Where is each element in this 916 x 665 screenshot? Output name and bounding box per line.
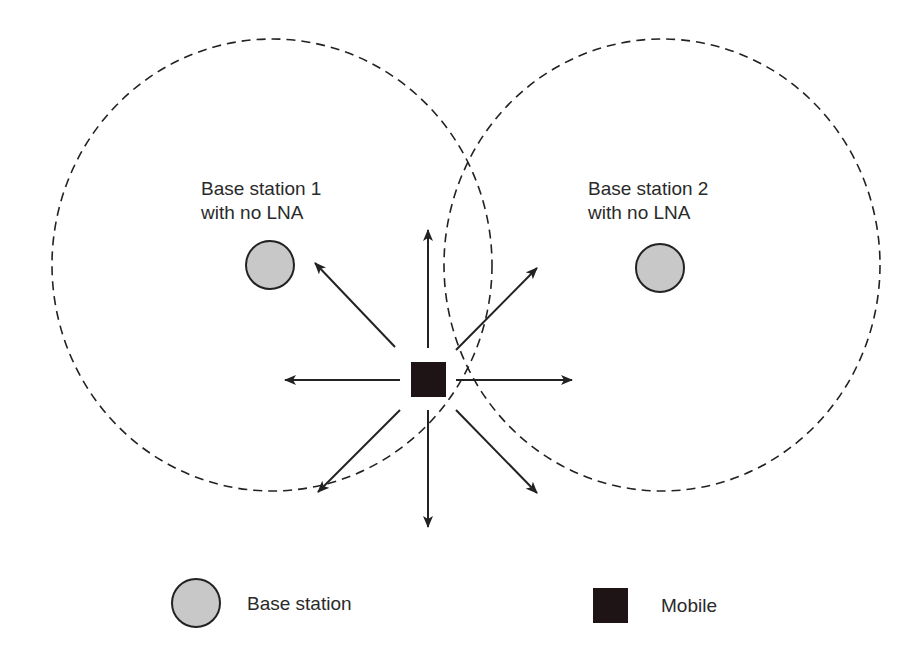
arrow-down-left-icon — [318, 410, 400, 492]
base-station-1-label: Base station 1 with no LNA — [201, 177, 321, 225]
base-station-2-label-line2: with no LNA — [588, 201, 708, 225]
mobile-icon — [411, 362, 446, 397]
legend-mobile-label: Mobile — [661, 594, 717, 618]
diagram-canvas — [0, 0, 916, 665]
base-station-1-label-line2: with no LNA — [201, 201, 321, 225]
base-station-2-icon — [636, 244, 684, 292]
base-station-2-label-line1: Base station 2 — [588, 177, 708, 201]
legend-mobile-icon — [593, 588, 628, 623]
base-station-1-icon — [246, 241, 294, 289]
base-station-1-label-line1: Base station 1 — [201, 177, 321, 201]
arrow-up-left-icon — [315, 263, 395, 347]
arrow-down-right-icon — [456, 410, 537, 493]
base-station-2-label: Base station 2 with no LNA — [588, 177, 708, 225]
legend-base-station-icon — [172, 579, 220, 627]
legend-base-station-label: Base station — [247, 592, 352, 616]
arrow-up-right-icon — [456, 268, 537, 350]
